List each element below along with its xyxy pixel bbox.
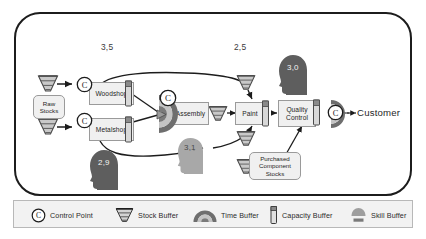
capacity-buffer-icon <box>269 205 278 225</box>
process-label-assembly: Assembly <box>176 110 205 117</box>
skill-buffer-icon-metalshop <box>88 148 120 190</box>
store-label-purchased-line1: Purchased <box>260 155 290 162</box>
legend-item-time-buffer: Time Buffer <box>193 201 259 229</box>
skill-buffer-icon-assembly <box>176 136 205 174</box>
process-box-quality-control[interactable]: Quality Control <box>278 100 316 127</box>
control-point-icon-woodshop[interactable]: C <box>76 76 93 93</box>
svg-text:C: C <box>36 211 41 220</box>
store-label-raw-line2: Stocks <box>40 107 59 114</box>
store-box-purchased-components[interactable]: Purchased Component Stocks <box>249 152 301 180</box>
store-label-purchased-line2: Component <box>259 162 291 169</box>
stock-buffer-icon-raw-top <box>37 74 59 93</box>
control-point-icon-customer[interactable]: C <box>327 104 344 121</box>
store-box-raw-stocks[interactable]: Raw Stocks <box>33 95 65 119</box>
control-point-icon: C <box>31 208 46 223</box>
capacity-buffer-icon-quality <box>312 98 321 127</box>
legend-item-stock-buffer: Stock Buffer <box>115 201 178 229</box>
skill-buffer-icon-quality <box>277 53 309 95</box>
control-point-icon-assembly[interactable]: C <box>159 89 177 107</box>
capacity-buffer-icon-woodshop <box>124 79 133 108</box>
capacity-value-woodshop: 3,5 <box>101 42 113 52</box>
stock-buffer-icon <box>115 207 134 223</box>
stock-buffer-icon-assembly-out <box>208 105 228 122</box>
diagram-frame <box>14 12 412 196</box>
stock-buffer-icon-raw-bottom <box>37 117 59 136</box>
process-label-woodshop: Woodshop <box>95 90 127 97</box>
legend-label-skill-buffer: Skill Buffer <box>371 211 406 220</box>
svg-text:C: C <box>333 109 339 118</box>
capacity-buffer-icon-metalshop <box>124 115 133 144</box>
process-label-quality-line2: Control <box>286 114 308 121</box>
svg-text:C: C <box>82 117 88 126</box>
legend-item-skill-buffer: Skill Buffer <box>350 201 406 229</box>
customer-label: Customer <box>357 107 400 118</box>
svg-text:C: C <box>82 81 88 90</box>
store-label-purchased-line3: Stocks <box>266 170 285 177</box>
diagram-canvas: 3,0 2,9 3,1 Woodshop Metalshop Assembly … <box>0 0 426 239</box>
legend-label-time-buffer: Time Buffer <box>221 211 259 220</box>
process-label-paint: Paint <box>242 110 258 117</box>
svg-text:C: C <box>165 93 171 103</box>
stock-buffer-icon-woodshop-to-paint <box>236 74 256 91</box>
legend-item-control-point: C Control Point <box>31 201 93 229</box>
time-buffer-icon <box>193 208 217 223</box>
control-point-icon-metalshop[interactable]: C <box>76 112 93 129</box>
store-label-raw-line1: Raw <box>43 100 55 107</box>
legend-label-capacity-buffer: Capacity Buffer <box>282 211 333 220</box>
capacity-buffer-icon-paint <box>261 99 270 128</box>
capacity-value-paint: 2,5 <box>234 42 246 52</box>
process-label-metalshop: Metalshop <box>96 126 127 133</box>
legend-item-capacity-buffer: Capacity Buffer <box>269 201 333 229</box>
legend-label-stock-buffer: Stock Buffer <box>138 211 178 220</box>
legend-label-control-point: Control Point <box>50 211 93 220</box>
stock-buffer-icon-metalshop-to-paint <box>236 130 256 147</box>
process-label-quality-line1: Quality <box>286 106 307 113</box>
legend-bar: C Control Point Stock Buffer <box>13 200 413 228</box>
skill-buffer-icon <box>350 207 367 223</box>
